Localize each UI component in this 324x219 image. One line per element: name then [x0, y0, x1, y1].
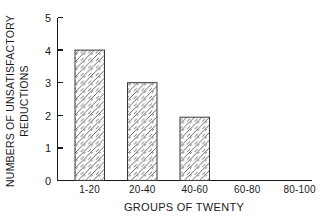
x-label-80-100: 80-100 — [284, 184, 317, 195]
y-tick-label-2: 2 — [45, 110, 51, 122]
y-axis-title-line2: REDUCTIONS — [18, 65, 30, 136]
x-label-20-40: 20-40 — [129, 184, 156, 195]
bar-chart-figure: 5 4 3 2 1 0 1-20 20-40 40-60 60-80 80-10… — [0, 0, 324, 219]
y-tick-label-3: 3 — [45, 77, 51, 89]
x-label-1-20: 1-20 — [79, 184, 100, 195]
y-axis-title-line1: NUMBERS OF UNSATISFACTORY — [4, 15, 16, 187]
y-tick-label-1: 1 — [45, 142, 51, 154]
chart-canvas: 5 4 3 2 1 0 1-20 20-40 40-60 60-80 80-10… — [0, 0, 324, 219]
x-label-60-80: 60-80 — [234, 184, 261, 195]
x-label-40-60: 40-60 — [181, 184, 208, 195]
x-axis-title: GROUPS OF TWENTY — [124, 201, 244, 213]
x-axis-category-labels: 1-20 20-40 40-60 60-80 80-100 — [79, 184, 316, 195]
bar-20-40 — [128, 83, 158, 181]
bar-series — [75, 50, 210, 180]
bar-40-60 — [180, 117, 210, 180]
y-axis-tick-labels: 5 4 3 2 1 0 — [45, 12, 51, 187]
bar-1-20 — [75, 50, 105, 180]
y-tick-label-4: 4 — [45, 45, 51, 57]
y-tick-label-0: 0 — [45, 175, 51, 187]
y-axis-title: NUMBERS OF UNSATISFACTORY REDUCTIONS — [4, 15, 30, 187]
y-tick-label-5: 5 — [45, 12, 51, 24]
